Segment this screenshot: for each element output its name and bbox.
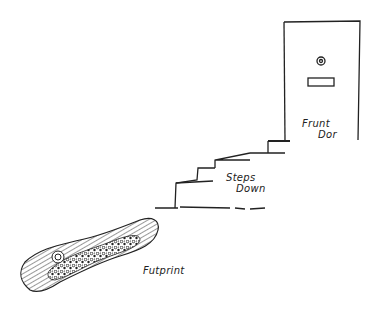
footprint-label: Futprint bbox=[143, 265, 185, 276]
steps bbox=[155, 141, 290, 209]
footprint-icon bbox=[21, 218, 158, 291]
steps-label: Steps Down bbox=[226, 172, 266, 194]
door-knob-icon bbox=[317, 57, 325, 65]
sketch-canvas: Frunt Dor Steps Down Futprint bbox=[0, 0, 384, 309]
mail-slot bbox=[308, 78, 334, 86]
sketch-drawing bbox=[0, 0, 384, 309]
door-label: Frunt Dor bbox=[302, 118, 337, 140]
